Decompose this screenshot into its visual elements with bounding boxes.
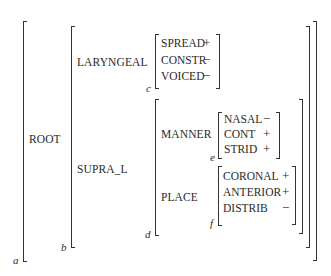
index-b: b <box>61 241 67 253</box>
bracket-b-right <box>306 26 310 248</box>
feature-value: + <box>282 184 289 200</box>
bracket-e-right <box>276 112 280 159</box>
bracket-d-left <box>155 99 159 236</box>
index-d: d <box>145 228 151 240</box>
bracket-b-left <box>71 26 75 248</box>
bracket-d-right <box>299 99 303 234</box>
feature-name: CORONAL <box>223 170 279 182</box>
feature-name: STRID <box>224 143 257 155</box>
index-f: f <box>210 217 213 229</box>
feature-value: − <box>203 68 210 84</box>
feature-name: NASAL <box>224 113 262 125</box>
bracket-c-left <box>155 34 159 89</box>
feature-value: − <box>263 111 270 127</box>
index-a: a <box>13 254 19 266</box>
feature-name: CONSTR <box>161 54 206 66</box>
index-c: c <box>146 82 151 94</box>
feature-value: − <box>282 200 289 216</box>
root-label: ROOT <box>29 133 61 145</box>
laryngeal-label: LARYNGEAL <box>77 56 148 68</box>
feature-value: − <box>203 52 210 68</box>
place-label: PLACE <box>161 191 198 203</box>
feature-name: DISTRIB <box>223 202 268 214</box>
feature-name: ANTERIOR <box>223 186 281 198</box>
bracket-c-right <box>216 34 220 89</box>
feature-name: VOICED <box>161 70 204 82</box>
manner-label: MANNER <box>161 128 211 140</box>
bracket-f-left <box>218 166 222 226</box>
bracket-f-right <box>292 166 296 225</box>
feature-name: CONT <box>224 128 255 140</box>
index-e: e <box>210 151 215 163</box>
supra-label: SUPRA_L <box>77 163 128 175</box>
feature-value: + <box>282 168 289 184</box>
bracket-a-left <box>23 21 27 262</box>
bracket-e-left <box>218 112 222 159</box>
bracket-a-right <box>313 21 317 261</box>
feature-name: SPREAD <box>161 37 205 49</box>
feature-value: + <box>263 141 270 157</box>
feature-value: + <box>263 126 270 142</box>
feature-value: + <box>203 35 210 51</box>
